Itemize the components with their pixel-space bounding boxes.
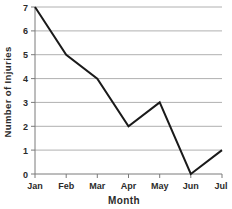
x-tick-label-jul: Jul	[214, 181, 227, 191]
y-tick-label-4: 4	[23, 74, 28, 84]
x-tick-label-feb: Feb	[58, 181, 75, 191]
chart-canvas: 7 6 5 4 3 2 1 0 Jan Feb Mar Apr May Jun …	[0, 0, 232, 209]
y-axis-title: Number of Injuries	[2, 46, 13, 137]
y-tick-label-2: 2	[23, 122, 28, 132]
x-tick-label-jun: Jun	[183, 181, 199, 191]
y-tick-label-5: 5	[23, 50, 28, 60]
y-tick-label-0: 0	[23, 170, 28, 180]
y-tick-label-6: 6	[23, 26, 28, 36]
y-tick-label-1: 1	[23, 146, 28, 156]
x-tick-label-apr: Apr	[121, 181, 137, 191]
x-tick-label-jan: Jan	[27, 181, 43, 191]
x-tick-label-may: May	[151, 181, 169, 191]
y-tick-label-7: 7	[23, 3, 28, 13]
y-tick-label-3: 3	[23, 98, 28, 108]
x-axis-title: Month	[108, 195, 140, 206]
x-tick-label-mar: Mar	[89, 181, 106, 191]
line-chart: 7 6 5 4 3 2 1 0 Jan Feb Mar Apr May Jun …	[0, 0, 232, 209]
